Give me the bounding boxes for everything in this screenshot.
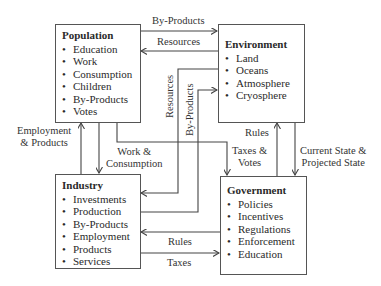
list-item: Cryosphere (225, 89, 298, 101)
edge-label-ind-to-gov: Taxes (167, 257, 191, 269)
list-item: Regulations (227, 223, 300, 235)
list-item: By-Products (62, 218, 134, 230)
node-item-list: Policies Incentives Regulations Enforcem… (227, 198, 300, 260)
list-item: Enforcement (227, 235, 300, 247)
list-item: Votes (62, 105, 134, 117)
node-title: Environment (225, 38, 298, 51)
list-item: Consumption (62, 68, 134, 80)
list-item: Education (227, 248, 300, 260)
edge-label-line: Employment (17, 125, 71, 137)
edge-label-gov-to-env: Rules (245, 127, 269, 139)
list-item: Investments (62, 193, 134, 205)
edge-label-line: Work & (106, 146, 163, 158)
node-industry: Industry Investments Production By-Produ… (55, 174, 141, 269)
edge-label-pop-to-ind: Work & Consumption (106, 146, 163, 170)
node-environment: Environment Land Oceans Atmosphere Cryos… (218, 24, 305, 123)
edge-label-line: Taxes & (232, 145, 267, 157)
edge-label-line: Votes (232, 157, 267, 169)
edge-label-env-to-gov: Current State & Projected State (300, 145, 367, 169)
list-item: Policies (227, 198, 300, 210)
list-item: Atmosphere (225, 77, 298, 89)
node-government: Government Policies Incentives Regulatio… (220, 176, 307, 275)
list-item: By-Products (62, 93, 134, 105)
node-item-list: Land Oceans Atmosphere Cryosphere (225, 52, 298, 102)
node-title: Industry (62, 179, 134, 192)
edge-label-line: Consumption (106, 158, 163, 170)
list-item: Services (62, 255, 134, 267)
list-item: Education (62, 43, 134, 55)
node-item-list: Investments Production By-Products Emplo… (62, 193, 134, 267)
list-item: Employment (62, 230, 134, 242)
edge-label-gov-to-ind: Rules (168, 236, 192, 248)
edge-label-ind-to-pop: Employment & Products (17, 125, 71, 149)
arrow-env-to-ind-resources (141, 69, 218, 193)
node-title: Population (62, 29, 134, 42)
edge-label-env-to-ind: Resources (164, 75, 176, 118)
list-item: Children (62, 80, 134, 92)
list-item: Products (62, 243, 134, 255)
edge-label-line: Current State & (300, 145, 367, 157)
edge-label-ind-to-env: By-Products (184, 84, 196, 137)
list-item: Work (62, 55, 134, 67)
list-item: Oceans (225, 64, 298, 76)
node-title: Government (227, 184, 300, 197)
edge-label-env-to-pop: Resources (157, 36, 200, 48)
edge-label-pop-to-gov: Taxes & Votes (232, 145, 267, 169)
node-item-list: Education Work Consumption Children By-P… (62, 43, 134, 117)
edge-label-line: Projected State (300, 157, 367, 169)
edge-label-line: & Products (17, 137, 71, 149)
list-item: Incentives (227, 210, 300, 222)
node-population: Population Education Work Consumption Ch… (55, 24, 141, 123)
edge-label-pop-to-env: By-Products (152, 15, 205, 27)
list-item: Production (62, 205, 134, 217)
list-item: Land (225, 52, 298, 64)
